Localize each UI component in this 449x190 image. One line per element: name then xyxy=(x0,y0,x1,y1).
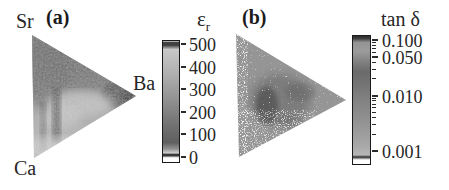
corner-label-sr: Sr xyxy=(16,11,34,31)
ternary-map-b xyxy=(230,28,355,168)
epsilon-symbol: ε xyxy=(197,7,206,31)
colorbar-a xyxy=(162,40,180,163)
corner-label-ba: Ba xyxy=(133,73,155,93)
figure: Sr (a) Ca Ba εr (b) tan δ 50040030020010… xyxy=(0,0,449,190)
corner-label-ca: Ca xyxy=(14,158,36,178)
ternary-map-a xyxy=(22,30,143,165)
panel-a-label: (a) xyxy=(46,7,69,27)
colorbar-a-title: εr xyxy=(197,9,210,33)
colorbar-b-title: tan δ xyxy=(381,9,420,29)
colorbar-b xyxy=(352,35,371,165)
panel-b-label: (b) xyxy=(242,7,266,27)
epsilon-subscript: r xyxy=(206,19,210,34)
